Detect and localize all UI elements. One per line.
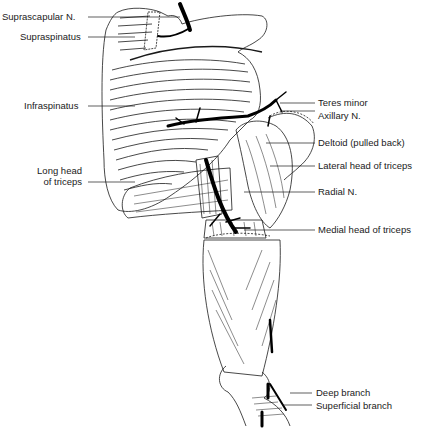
label-deltoid: Deltoid (pulled back): [318, 137, 405, 148]
suprascapular-nerve: [180, 4, 190, 30]
superficial-branch-nerve: [270, 384, 286, 410]
label-suprascapular-n: Suprascapular N.: [2, 11, 75, 22]
anatomy-diagram: Suprascapular N. Supraspinatus Infraspin…: [0, 0, 425, 428]
label-deep-branch: Deep branch: [316, 387, 370, 398]
scapula-outline: [102, 8, 267, 211]
label-supraspinatus: Supraspinatus: [20, 31, 81, 42]
arm-illustration: [0, 0, 425, 428]
label-long-head-line2: of triceps: [32, 176, 82, 187]
label-infraspinatus: Infraspinatus: [24, 100, 78, 111]
label-teres-minor: Teres minor: [318, 97, 368, 108]
label-superficial-branch: Superficial branch: [316, 400, 392, 411]
label-axillary-n: Axillary N.: [318, 110, 361, 121]
label-long-head-line1: Long head: [32, 165, 82, 176]
label-radial-n: Radial N.: [318, 186, 357, 197]
label-lateral-head-triceps: Lateral head of triceps: [318, 160, 412, 171]
label-medial-head-triceps: Medial head of triceps: [318, 224, 411, 235]
